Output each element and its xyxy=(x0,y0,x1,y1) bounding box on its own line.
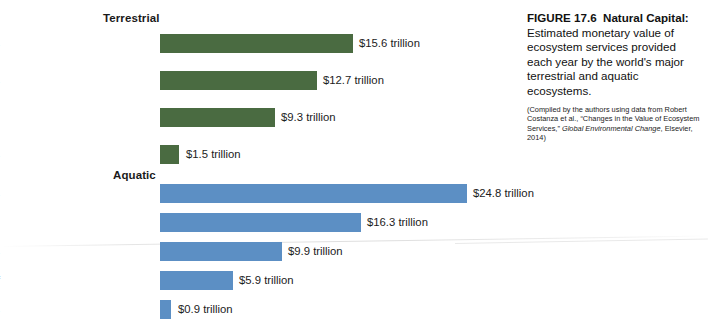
figure-caption-title: FIGURE 17.6 Natural Capital: Estimated m… xyxy=(527,11,702,99)
bar-track xyxy=(160,242,282,261)
bar-track xyxy=(160,108,275,127)
bar-value: $16.3 trillion xyxy=(367,213,428,232)
figure-number: FIGURE 17.6 xyxy=(527,11,597,24)
figure-description: Estimated monetary value of ecosystem se… xyxy=(527,26,684,97)
bar-value: $24.8 trillion xyxy=(473,184,534,203)
bar-value: $15.6 trillion xyxy=(359,34,420,53)
bar-fill-coastal-marshes xyxy=(160,184,467,203)
bar-value: $12.7 trillion xyxy=(323,71,384,90)
bar-track xyxy=(160,213,361,232)
bar-track xyxy=(160,300,171,319)
figure-page: Terrestrial Aquatic Forests $15.6 trilli… xyxy=(0,0,708,326)
bar-value: $9.9 trillion xyxy=(288,242,343,261)
bar-fill-grasslands xyxy=(160,71,317,90)
bar-fill-open-ocean xyxy=(160,213,361,232)
bar-track xyxy=(160,271,233,290)
bar-fill-coral-reefs xyxy=(160,242,282,261)
bar-fill-swamps xyxy=(160,145,179,164)
bar-fill-lakes-rivers xyxy=(160,300,171,319)
group-heading-aquatic: Aquatic xyxy=(113,169,156,181)
bar-value: $9.3 trillion xyxy=(281,108,336,127)
bar-value: $1.5 trillion xyxy=(186,145,241,164)
bar-value: $0.9 trillion xyxy=(178,300,233,319)
bar-track xyxy=(160,34,353,53)
bar-fill-marine-shelf xyxy=(160,271,233,290)
group-heading-terrestrial: Terrestrial xyxy=(103,12,160,24)
bar-track xyxy=(160,145,179,164)
bar-chart: Terrestrial Aquatic Forests $15.6 trilli… xyxy=(0,0,520,326)
bar-track xyxy=(160,184,467,203)
source-journal-name: Global Environmental Change xyxy=(562,124,661,133)
figure-term: Natural Capital: xyxy=(603,11,689,24)
bar-value: $5.9 trillion xyxy=(239,271,294,290)
bar-fill-cropland xyxy=(160,108,275,127)
figure-source-note: (Compiled by the authors using data from… xyxy=(527,105,702,143)
bar-track xyxy=(160,71,317,90)
bar-fill-forests xyxy=(160,34,353,53)
figure-caption: FIGURE 17.6 Natural Capital: Estimated m… xyxy=(527,11,702,143)
